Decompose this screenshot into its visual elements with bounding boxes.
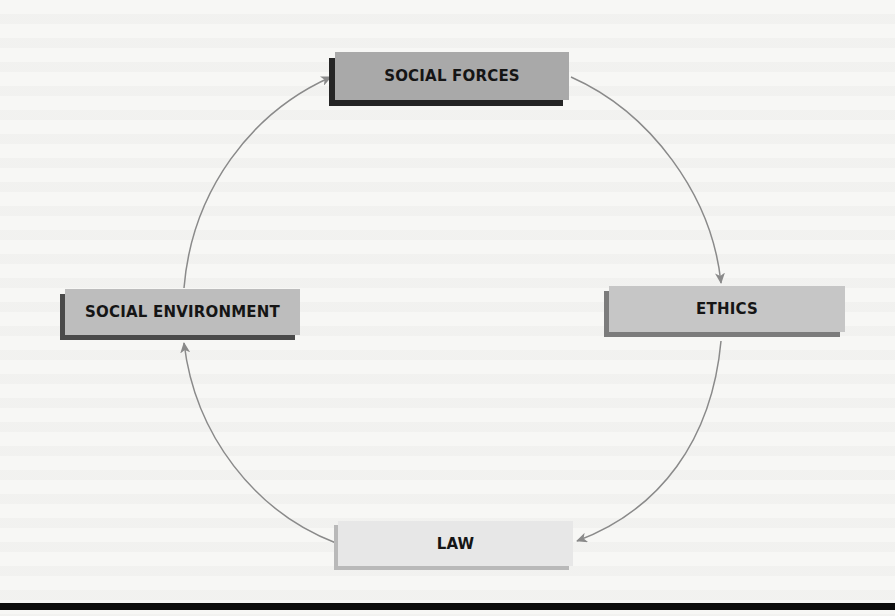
node-label: SOCIAL FORCES	[384, 67, 520, 85]
arrow-social-environment-to-social-forces	[184, 77, 331, 288]
node-law: LAW	[338, 521, 573, 566]
node-label: ETHICS	[696, 300, 758, 318]
node-social-forces: SOCIAL FORCES	[335, 52, 569, 100]
node-social-environment: SOCIAL ENVIRONMENT	[65, 289, 300, 335]
arrow-social-forces-to-ethics	[571, 77, 721, 283]
bottom-rule-divider	[0, 603, 895, 610]
node-label: LAW	[437, 535, 475, 553]
arrow-law-to-social-environment	[184, 343, 336, 543]
node-ethics: ETHICS	[609, 286, 845, 332]
arrow-ethics-to-law	[577, 341, 721, 541]
node-label: SOCIAL ENVIRONMENT	[85, 303, 280, 321]
